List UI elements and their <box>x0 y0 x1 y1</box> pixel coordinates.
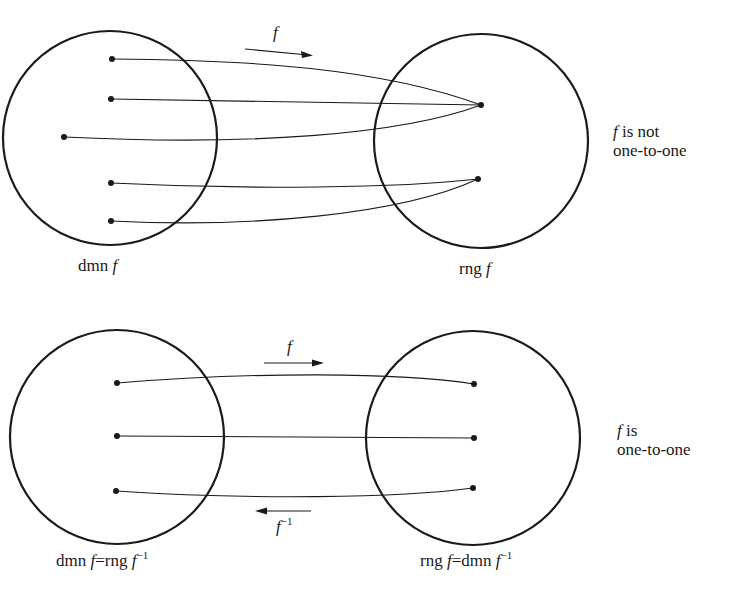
f-arrow-top <box>245 49 308 55</box>
caption-line1: is <box>626 421 637 440</box>
caption-fn: f <box>613 122 618 141</box>
caption-line1: is not <box>622 122 659 141</box>
domain-label-top: dmn f <box>78 256 117 275</box>
range-prefix: rng <box>420 551 443 570</box>
domain-set-circle-top <box>3 31 217 245</box>
domain-points-bottom <box>113 380 120 494</box>
f-arrow-label-bottom: f <box>287 337 292 356</box>
range-label-top: rng f <box>459 259 491 278</box>
caption-bottom: f is one-to-one <box>617 421 691 459</box>
range-label-bottom: rng f=dmn f−1 <box>420 551 512 570</box>
f-arrow-label-top: f <box>273 23 278 42</box>
caption-top: f is not one-to-one <box>613 122 687 160</box>
inverse-sup: −1 <box>281 515 293 527</box>
range-points-top <box>475 102 484 182</box>
arrowhead-right-icon <box>301 51 313 58</box>
mapping-lines-top <box>64 59 481 223</box>
range-eq: =dmn <box>452 551 492 570</box>
range-prefix: rng <box>459 259 482 278</box>
caption-fn: f <box>617 421 622 440</box>
range-points-bottom <box>470 381 477 491</box>
domain-label-bottom: dmn f=rng f−1 <box>56 551 148 570</box>
domain-sup: −1 <box>136 549 148 561</box>
domain-fn: f <box>112 256 117 275</box>
domain-prefix: dmn <box>56 551 86 570</box>
domain-eq: =rng <box>95 551 127 570</box>
domain-prefix: dmn <box>78 256 108 275</box>
range-fn: f <box>486 259 491 278</box>
caption-line2: one-to-one <box>617 440 691 459</box>
range-set-circle-top <box>374 34 588 248</box>
f-inverse-arrow-label: f−1 <box>276 517 292 536</box>
domain-points-top <box>61 56 115 224</box>
caption-line2: one-to-one <box>613 141 687 160</box>
arrowhead-left-icon <box>255 508 267 515</box>
arrowhead-right-icon <box>312 360 324 367</box>
range-sup: −1 <box>500 549 512 561</box>
mapping-lines-bottom <box>116 375 474 497</box>
diagram-canvas <box>0 0 734 599</box>
